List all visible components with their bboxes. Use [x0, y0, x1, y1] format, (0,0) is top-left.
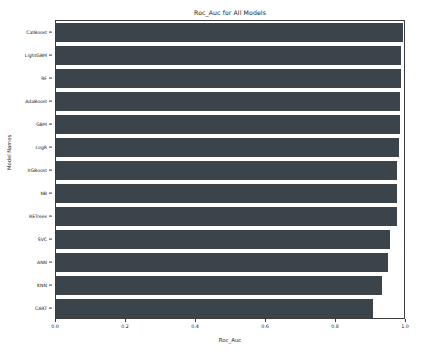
x-tick-label-0.4: 0.4	[191, 324, 199, 329]
bar-rect	[56, 253, 388, 272]
y-tick-label-knn: KNN	[37, 282, 47, 287]
bar-rect	[56, 161, 397, 180]
bar-logr	[56, 138, 404, 157]
x-axis-tick-labels: 0.00.20.40.60.81.0	[55, 319, 405, 333]
chart-title: Roc_Auc for All Models	[55, 9, 405, 16]
y-tick-mark	[49, 123, 52, 124]
bar-xgboost	[56, 161, 404, 180]
y-tick-mark	[49, 215, 52, 216]
bar-rf	[56, 69, 404, 88]
y-tick-label-adaboost: AdaBoost	[25, 98, 47, 103]
bar-retrees	[56, 207, 404, 226]
y-tick-label-cart: CART	[35, 305, 47, 310]
y-tick-label-gbm: GBM	[36, 121, 47, 126]
y-axis-tick-labels: CatBoostLightGBMRFAdaBoostGBMLogRXGBoost…	[0, 20, 52, 319]
bar-cart	[56, 299, 404, 318]
bar-rect	[56, 115, 400, 134]
y-tick-label-nb: NB	[40, 190, 47, 195]
bar-rect	[56, 207, 397, 226]
bar-ann	[56, 253, 404, 272]
bar-svc	[56, 230, 404, 249]
bar-knn	[56, 276, 404, 295]
x-tick-label-0.2: 0.2	[121, 324, 129, 329]
y-tick-mark	[49, 54, 52, 55]
bar-rect	[56, 69, 401, 88]
x-tick-mark	[195, 319, 196, 322]
x-tick-mark	[55, 319, 56, 322]
bar-lightgbm	[56, 46, 404, 65]
bar-rect	[56, 23, 403, 42]
bar-rect	[56, 230, 390, 249]
y-tick-mark	[49, 100, 52, 101]
x-tick-label-0.6: 0.6	[261, 324, 269, 329]
x-tick-label-0.0: 0.0	[51, 324, 59, 329]
bar-adaboost	[56, 92, 404, 111]
y-tick-label-lightgbm: LightGBM	[25, 52, 47, 57]
x-tick-label-0.8: 0.8	[331, 324, 339, 329]
chart-figure: Roc_Auc for All Models Model Names CatBo…	[0, 0, 439, 360]
plot-area	[55, 20, 405, 319]
bar-rect	[56, 276, 382, 295]
x-tick-mark	[125, 319, 126, 322]
bar-catboost	[56, 23, 404, 42]
y-tick-mark	[49, 192, 52, 193]
bar-gbm	[56, 115, 404, 134]
x-tick-mark	[265, 319, 266, 322]
y-tick-label-catboost: CatBoost	[26, 29, 47, 34]
y-tick-mark	[49, 31, 52, 32]
bar-rect	[56, 138, 399, 157]
bar-rect	[56, 92, 400, 111]
y-tick-mark	[49, 284, 52, 285]
y-tick-mark	[49, 307, 52, 308]
x-tick-label-1.0: 1.0	[401, 324, 409, 329]
y-tick-mark	[49, 261, 52, 262]
bar-nb	[56, 184, 404, 203]
y-tick-mark	[49, 77, 52, 78]
y-tick-label-rf: RF	[41, 75, 47, 80]
y-tick-label-logr: LogR	[36, 144, 47, 149]
y-tick-mark	[49, 238, 52, 239]
y-tick-label-svc: SVC	[38, 236, 47, 241]
y-tick-label-ann: ANN	[37, 259, 47, 264]
bar-rect	[56, 46, 401, 65]
x-tick-mark	[335, 319, 336, 322]
y-tick-mark	[49, 169, 52, 170]
bar-rect	[56, 184, 397, 203]
x-tick-mark	[405, 319, 406, 322]
y-tick-label-xgboost: XGBoost	[27, 167, 47, 172]
bar-rect	[56, 299, 373, 318]
x-axis-label: Roc_Auc	[55, 337, 405, 343]
y-tick-label-retrees: RETrees	[29, 213, 47, 218]
bars-layer	[56, 21, 404, 318]
y-tick-mark	[49, 146, 52, 147]
